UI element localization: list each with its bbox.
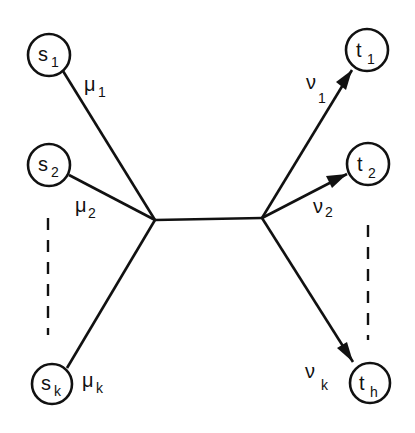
node-label-base: s bbox=[38, 43, 48, 65]
node-label-base: t bbox=[359, 372, 365, 394]
arrowhead-t2-icon bbox=[326, 174, 347, 188]
edge-label-sub: 2 bbox=[325, 204, 333, 220]
arrowhead-t1-icon bbox=[336, 70, 352, 90]
node-label-sub: h bbox=[370, 384, 378, 400]
sink-node-th: t h bbox=[350, 363, 390, 403]
node-label-sub: 1 bbox=[51, 54, 59, 70]
edge-label-base: μ bbox=[75, 194, 87, 216]
edge-label-sub: 1 bbox=[98, 84, 106, 100]
edge-sk-junction bbox=[67, 220, 155, 368]
sink-node-t1: t 1 bbox=[346, 29, 388, 71]
edge-label-sub: 1 bbox=[318, 90, 326, 106]
edge-label-sub: 2 bbox=[88, 205, 96, 221]
arrowhead-th-icon bbox=[337, 342, 353, 362]
edge-label-nu1: ν 1 bbox=[306, 71, 326, 106]
node-label-base: t bbox=[357, 153, 363, 175]
node-label-base: s bbox=[38, 153, 48, 175]
source-node-sk: s k bbox=[32, 364, 72, 404]
edge-label-mu2: μ 2 bbox=[75, 194, 96, 221]
edge-label-nuk: ν k bbox=[305, 360, 329, 393]
edge-label-base: ν bbox=[305, 360, 315, 382]
edge-junction-th bbox=[262, 218, 353, 362]
edge-label-base: μ bbox=[82, 369, 94, 391]
node-label-base: t bbox=[356, 39, 362, 61]
node-label-sub: k bbox=[54, 383, 62, 399]
edge-label-mu1: μ 1 bbox=[84, 73, 106, 100]
edge-label-base: ν bbox=[313, 195, 323, 217]
node-label-sub: 1 bbox=[367, 51, 375, 67]
source-node-s2: s 2 bbox=[28, 144, 70, 186]
node-label-sub: 2 bbox=[368, 165, 376, 181]
edge-label-base: μ bbox=[84, 73, 96, 95]
edge-label-base: ν bbox=[306, 71, 316, 93]
flow-network-diagram: s 1 s 2 s k t 1 t 2 t h bbox=[0, 0, 415, 433]
sink-node-t2: t 2 bbox=[347, 143, 389, 185]
node-label-sub: 2 bbox=[51, 164, 59, 180]
edge-label-muk: μ k bbox=[82, 369, 104, 396]
edge-junction-bridge bbox=[155, 218, 262, 220]
edge-label-nu2: ν 2 bbox=[313, 195, 333, 220]
source-node-s1: s 1 bbox=[28, 34, 70, 76]
edge-label-sub: k bbox=[321, 377, 329, 393]
node-label-base: s bbox=[41, 372, 51, 394]
edge-label-sub: k bbox=[96, 380, 104, 396]
